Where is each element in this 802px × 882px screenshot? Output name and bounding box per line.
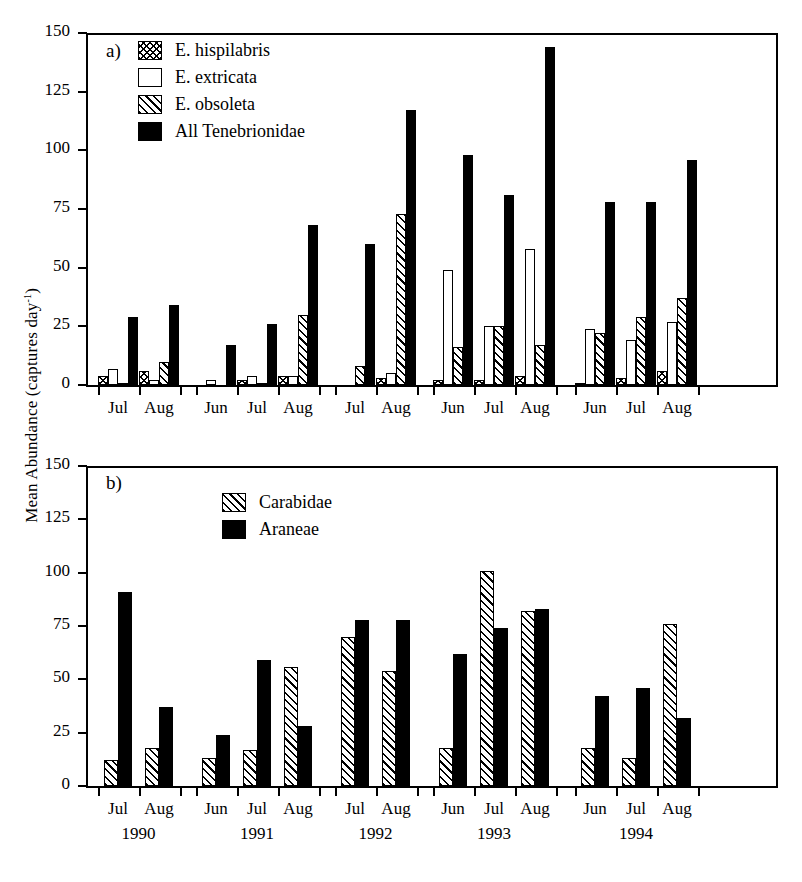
bar (149, 380, 159, 385)
bar (636, 688, 650, 786)
x-axis-line-b (86, 786, 778, 788)
bar (585, 329, 595, 385)
x-axis-tick (616, 788, 618, 796)
y-axis-tick-label: 125 (24, 80, 70, 100)
bar (494, 628, 508, 786)
bar (202, 758, 216, 786)
x-axis-tick (139, 788, 141, 796)
x-axis-year-label: 1990 (99, 824, 179, 844)
y-axis-tick-label: 150 (24, 454, 70, 474)
x-axis-month-label: Aug (370, 799, 422, 819)
y-axis-tick-label: 50 (24, 667, 70, 687)
bar (355, 620, 369, 786)
y-axis-tick (78, 149, 87, 151)
bar (575, 383, 585, 385)
x-axis-month-label: Aug (509, 799, 561, 819)
bar (278, 376, 288, 385)
y-axis-tick (78, 678, 87, 680)
bar (206, 380, 216, 385)
bar (439, 748, 453, 786)
x-axis-tick (556, 387, 558, 395)
bar (257, 383, 267, 385)
x-axis-year-label: 1994 (596, 824, 676, 844)
bar (484, 326, 494, 385)
bar (159, 362, 169, 385)
y-axis-label-close: ) (22, 288, 41, 294)
bar (118, 592, 132, 786)
x-axis-tick (474, 788, 476, 796)
bar (145, 748, 159, 786)
x-axis-tick (556, 788, 558, 796)
bar (118, 383, 128, 385)
bar (237, 380, 247, 385)
x-axis-tick (335, 788, 337, 796)
y-axis-tick (78, 518, 87, 520)
bar (622, 758, 636, 786)
x-axis-tick (515, 387, 517, 395)
bar (298, 726, 312, 786)
x-axis-tick (698, 788, 700, 796)
x-axis-month-label: Aug (272, 799, 324, 819)
x-axis-tick (139, 387, 141, 395)
y-axis-tick-label: 75 (24, 614, 70, 634)
bar (284, 667, 298, 786)
bar (687, 160, 697, 385)
y-axis-tick (78, 465, 87, 467)
y-axis-tick-label: 0 (24, 774, 70, 794)
bar (595, 333, 605, 385)
bar (453, 654, 467, 786)
x-axis-month-label: Aug (133, 799, 185, 819)
figure-root: Mean Abundance (captures day-1) a) E. hi… (0, 0, 802, 882)
x-axis-tick (98, 387, 100, 395)
x-axis-tick (515, 788, 517, 796)
x-axis-tick (278, 387, 280, 395)
x-axis-month-label: Aug (651, 799, 703, 819)
bar (480, 571, 494, 786)
x-axis-tick (180, 788, 182, 796)
x-axis-month-label: Aug (509, 398, 561, 418)
bar (474, 380, 484, 385)
bar (128, 317, 138, 385)
x-axis-tick (319, 387, 321, 395)
bar (535, 345, 545, 385)
x-axis-tick (237, 788, 239, 796)
x-axis-tick (417, 387, 419, 395)
bar (463, 155, 473, 385)
bar (504, 195, 514, 385)
bar (677, 298, 687, 385)
x-axis-tick (698, 387, 700, 395)
bar (139, 371, 149, 385)
bar (288, 376, 298, 385)
x-axis-year-label: 1991 (217, 824, 297, 844)
bar (108, 369, 118, 385)
x-axis-tick (319, 788, 321, 796)
bar (646, 202, 656, 385)
x-axis-line-a (86, 385, 778, 387)
x-axis-tick (657, 387, 659, 395)
bar (382, 671, 396, 786)
bar (365, 244, 375, 385)
x-axis-month-label: Aug (651, 398, 703, 418)
y-axis-tick (78, 267, 87, 269)
x-axis-tick (433, 387, 435, 395)
y-axis-tick (78, 732, 87, 734)
x-axis-month-label: Aug (370, 398, 422, 418)
y-axis-label: Mean Abundance (captures day-1) (22, 185, 43, 625)
x-axis-tick (616, 387, 618, 395)
bar (355, 366, 365, 385)
bar (515, 376, 525, 385)
bar (657, 371, 667, 385)
bar (396, 620, 410, 786)
bar (677, 718, 691, 786)
x-axis-tick (376, 387, 378, 395)
bar (525, 249, 535, 385)
x-axis-tick (98, 788, 100, 796)
y-axis-tick-label: 0 (24, 373, 70, 393)
bar (396, 214, 406, 385)
bar (386, 373, 396, 385)
x-axis-tick (237, 387, 239, 395)
bar (667, 322, 677, 385)
bar (605, 202, 615, 385)
x-axis-tick (196, 788, 198, 796)
x-axis-tick (417, 788, 419, 796)
